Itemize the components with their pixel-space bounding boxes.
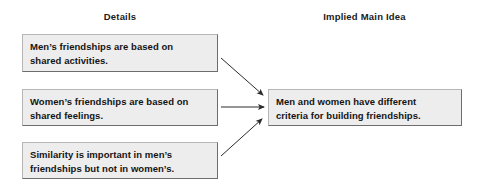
detail-box-3-line-1: Similarity is important in men’s — [30, 148, 210, 162]
main-idea-box-line-1: Men and women have different — [276, 95, 454, 109]
column-header-details: Details — [0, 11, 240, 22]
detail-box-1: Men’s friendships are based on shared ac… — [22, 34, 218, 72]
detail-box-1-line-2: shared activities. — [30, 54, 210, 68]
main-idea-box: Men and women have different criteria fo… — [268, 89, 462, 126]
arrow-detail-1-to-main-idea — [221, 58, 263, 95]
detail-box-3-line-2: friendships but not in women’s. — [30, 162, 210, 176]
detail-box-2-line-1: Women’s friendships are based on — [30, 95, 210, 109]
detail-box-2-line-2: shared feelings. — [30, 109, 210, 123]
detail-box-2: Women’s friendships are based on shared … — [22, 89, 218, 126]
detail-box-3: Similarity is important in men’s friends… — [22, 142, 218, 179]
implied-main-idea-diagram: Details Implied Main Idea Men’s friendsh… — [0, 0, 484, 185]
arrow-detail-3-to-main-idea — [221, 119, 262, 156]
column-header-implied-main-idea: Implied Main Idea — [245, 11, 484, 22]
main-idea-box-line-2: criteria for building friendships. — [276, 109, 454, 123]
detail-box-1-line-1: Men’s friendships are based on — [30, 40, 210, 54]
